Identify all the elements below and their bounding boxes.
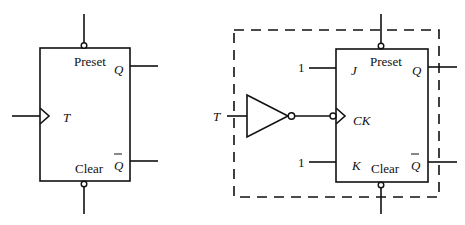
right-qbar-label: Q [411, 158, 421, 173]
inverter-bubble [288, 113, 294, 119]
right-jk-circuit: T 1 1 Preset J Q CK K Clear Q [213, 14, 457, 214]
left-q-label: Q [114, 62, 124, 77]
right-q-label: Q [412, 63, 422, 78]
flipflop-diagram: Preset Q T Q Clear T 1 1 Preset J Q [0, 0, 465, 225]
ck-label: CK [353, 113, 372, 128]
left-clock-triangle-icon [40, 108, 49, 124]
j-label: J [351, 63, 358, 78]
j-const-label: 1 [298, 60, 305, 75]
left-clear-bubble [81, 181, 87, 187]
left-preset-bubble [81, 43, 87, 49]
left-preset-label: Preset [74, 54, 106, 69]
k-const-label: 1 [298, 155, 305, 170]
right-clear-label: Clear [371, 161, 400, 176]
k-label: K [351, 158, 362, 173]
right-preset-label: Preset [370, 54, 402, 69]
left-t-flipflop: Preset Q T Q Clear [12, 14, 158, 214]
right-t-label: T [213, 109, 221, 124]
inverter-triangle-icon [247, 95, 288, 137]
left-clear-label: Clear [75, 161, 104, 176]
right-clock-triangle-icon [336, 108, 345, 124]
right-clear-bubble [378, 182, 384, 188]
left-t-label: T [63, 110, 71, 125]
right-preset-bubble [378, 43, 384, 49]
left-qbar-label: Q [114, 158, 124, 173]
ck-bubble [330, 113, 336, 119]
